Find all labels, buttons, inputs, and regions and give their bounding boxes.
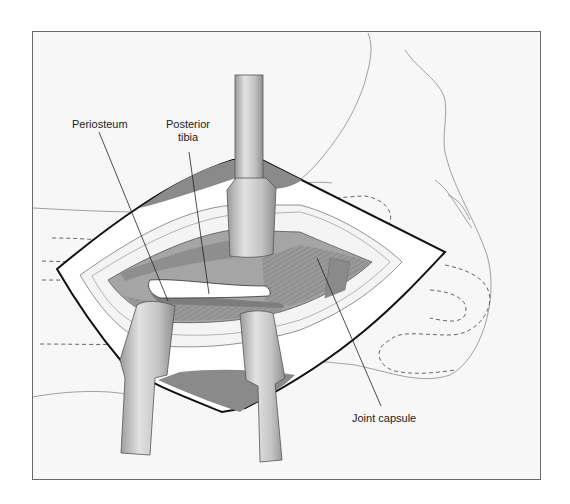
label-joint-capsule: Joint capsule xyxy=(352,412,416,425)
label-posterior-tibia-line2: tibia xyxy=(164,131,212,144)
label-periosteum: Periosteum xyxy=(72,118,128,131)
label-posterior-tibia: Posterior tibia xyxy=(164,118,212,144)
surgical-illustration xyxy=(0,0,570,504)
label-posterior-tibia-line1: Posterior xyxy=(164,118,212,131)
